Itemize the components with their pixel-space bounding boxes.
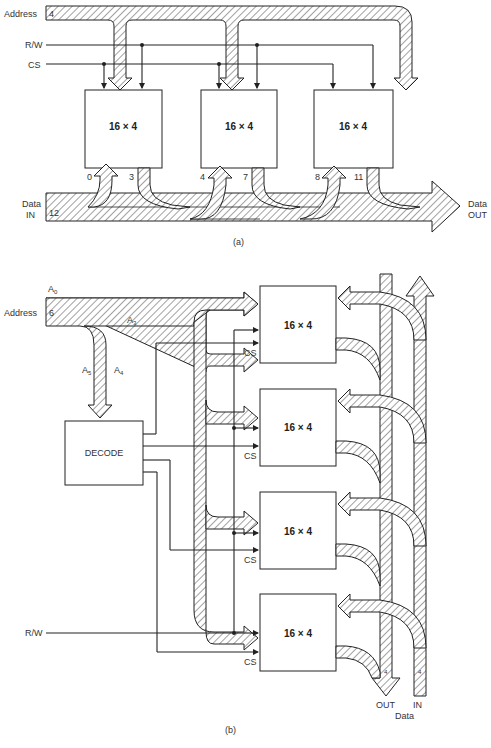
a5-label: A5 (82, 365, 92, 376)
svg-text:16 × 4: 16 × 4 (284, 526, 313, 537)
svg-text:4: 4 (200, 172, 205, 182)
svg-text:16 × 4: 16 × 4 (284, 320, 313, 331)
svg-text:CS: CS (244, 451, 257, 461)
memory-expansion-diagram: Address 4 R/W CS 16 × 4 16 × 4 16 × 4 (0, 0, 491, 748)
svg-text:7: 7 (243, 172, 248, 182)
address-width-b: 6 (49, 308, 54, 318)
svg-text:16 × 4: 16 × 4 (109, 121, 138, 132)
in-label: IN (413, 700, 422, 710)
data-in-label: Data (22, 199, 41, 209)
rw-label-a: R/W (25, 40, 43, 50)
svg-text:OUT: OUT (468, 210, 488, 220)
data-out-label: Data (468, 199, 487, 209)
svg-text:3: 3 (129, 172, 134, 182)
figure-b: A0 Address 6 A3 A5 A4 DECODE R/W 16 × 4 (4, 274, 434, 735)
address-bus-a (46, 6, 418, 90)
svg-text:8: 8 (315, 172, 320, 182)
svg-text:16 × 4: 16 × 4 (225, 121, 254, 132)
address-width-a: 4 (49, 9, 54, 19)
data-in-width: 12 (49, 208, 59, 218)
address-label-a: Address (4, 9, 38, 19)
svg-text:16 × 4: 16 × 4 (284, 628, 313, 639)
svg-text:11: 11 (354, 172, 363, 182)
caption-b: (b) (225, 725, 236, 735)
svg-text:DECODE: DECODE (85, 448, 124, 458)
a4-label: A4 (114, 365, 124, 376)
out-label: OUT (376, 700, 396, 710)
a0-label: A0 (48, 284, 58, 295)
svg-text:16 × 4: 16 × 4 (339, 121, 368, 132)
svg-text:16 × 4: 16 × 4 (284, 422, 313, 433)
data-label-b: Data (395, 711, 414, 721)
rw-label-b: R/W (25, 628, 43, 638)
figure-a: Address 4 R/W CS 16 × 4 16 × 4 16 × 4 (4, 6, 488, 247)
svg-text:CS: CS (244, 348, 257, 358)
svg-text:0: 0 (87, 172, 92, 182)
cs-label-a: CS (28, 60, 41, 70)
svg-text:CS: CS (244, 657, 257, 667)
data-out-bus (372, 274, 400, 696)
svg-text:IN: IN (26, 210, 35, 220)
caption-a: (a) (233, 237, 244, 247)
address-label-b: Address (4, 308, 38, 318)
svg-text:CS: CS (244, 555, 257, 565)
